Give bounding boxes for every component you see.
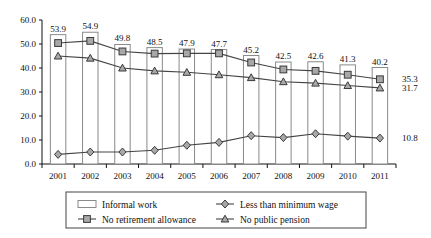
bar-value-label: 47.9: [179, 38, 195, 48]
x-tick-label: 2011: [371, 171, 389, 181]
legend-item-bar[interactable]: Informal work: [78, 200, 157, 210]
y-tick-label: 50.0: [20, 39, 36, 49]
chart-container: 0.010.020.030.040.050.060.0 200120022003…: [0, 0, 431, 238]
informal-work-chart: 0.010.020.030.040.050.060.0 200120022003…: [0, 0, 431, 238]
series-end-labels: 35.331.710.8: [402, 74, 418, 143]
bar-value-label: 42.6: [308, 51, 324, 61]
square-marker-icon: [55, 40, 62, 47]
bar-value-label: 54.9: [82, 21, 98, 31]
bar-value-label: 47.7: [211, 39, 227, 49]
bar-value-label: 53.9: [50, 24, 66, 34]
y-tick-label: 20.0: [20, 111, 36, 121]
y-tick-label: 30.0: [20, 87, 36, 97]
legend-label: No public pension: [240, 215, 310, 225]
square-marker-icon: [216, 50, 223, 57]
legend-label: No retirement allowance: [102, 215, 196, 225]
square-marker-icon: [183, 50, 190, 57]
series-end-label: 10.8: [402, 133, 418, 143]
bar-value-label: 42.5: [275, 51, 291, 61]
x-tick-label: 2008: [274, 171, 293, 181]
x-tick-label: 2005: [178, 171, 197, 181]
bar: [243, 56, 258, 164]
chart-legend: Informal workLess than minimum wageNo re…: [66, 192, 366, 228]
square-marker-icon: [312, 67, 319, 74]
bar-value-label: 49.8: [115, 33, 131, 43]
x-tick-label: 2001: [49, 171, 67, 181]
x-tick-label: 2009: [307, 171, 326, 181]
x-tick-label: 2004: [146, 171, 165, 181]
x-tick-label: 2003: [113, 171, 132, 181]
x-tick-label: 2006: [210, 171, 229, 181]
x-tick-label: 2002: [81, 171, 99, 181]
square-marker-icon: [119, 48, 126, 55]
bar-value-label: 45.2: [243, 45, 259, 55]
series-end-label: 31.7: [402, 83, 418, 93]
y-tick-label: 10.0: [20, 135, 36, 145]
square-marker-icon: [84, 216, 91, 223]
square-marker-icon: [280, 66, 287, 73]
legend-bar-icon: [78, 201, 96, 208]
bar: [340, 65, 355, 164]
y-tick-label: 60.0: [20, 15, 36, 25]
square-marker-icon: [151, 50, 158, 57]
bar: [308, 62, 323, 164]
bar: [115, 44, 130, 164]
bar-value-label: 41.3: [340, 54, 356, 64]
square-marker-icon: [87, 37, 94, 44]
legend-label: Informal work: [102, 200, 157, 210]
x-tick-label: 2010: [339, 171, 358, 181]
y-axis: 0.010.020.030.040.050.060.0: [20, 15, 42, 169]
square-marker-icon: [248, 59, 255, 66]
square-marker-icon: [377, 76, 384, 83]
x-tick-label: 2007: [242, 171, 261, 181]
x-axis: 2001200220032004200520062007200820092010…: [42, 164, 396, 181]
bar-value-label: 40.2: [372, 57, 388, 67]
legend-label: Less than minimum wage: [240, 200, 338, 210]
square-marker-icon: [344, 71, 351, 78]
y-tick-label: 40.0: [20, 63, 36, 73]
y-tick-label: 0.0: [25, 159, 37, 169]
bar: [83, 32, 98, 164]
bar-value-label: 48.5: [147, 37, 163, 47]
